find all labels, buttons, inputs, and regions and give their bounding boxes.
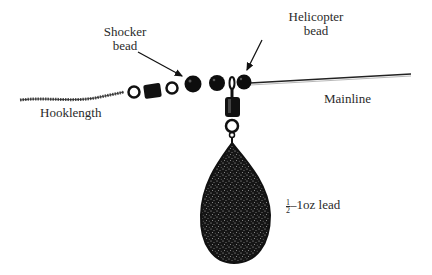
- hooklength-line: [20, 92, 124, 100]
- label-helicopter-bead: Helicopter bead: [276, 10, 356, 38]
- label-shocker-line1: Shocker: [100, 25, 150, 39]
- mainline: [250, 74, 411, 85]
- lead-weight-text: –1oz lead: [290, 197, 340, 212]
- label-mainline: Mainline: [324, 92, 371, 106]
- helicopter-bead: [237, 75, 252, 90]
- label-shocker-bead: Shocker bead: [100, 25, 150, 53]
- label-helicopter-line1: Helicopter: [276, 10, 356, 24]
- shocker-bead-arrow: [138, 52, 182, 76]
- label-helicopter-line2: bead: [276, 24, 356, 38]
- label-hooklength: Hooklength: [40, 106, 101, 120]
- swivel-horizontal: [129, 83, 178, 100]
- label-lead: 1 2 –1oz lead: [286, 198, 340, 214]
- lead-weight: [201, 143, 270, 263]
- shocker-bead: [185, 76, 202, 93]
- helicopter-rig-diagram: Shocker bead Helicopter bead Mainline Ho…: [0, 0, 432, 275]
- helicopter-bead-arrow: [247, 40, 262, 70]
- bead-middle: [209, 75, 225, 91]
- rig-illustration: [0, 0, 432, 275]
- label-shocker-line2: bead: [100, 39, 150, 53]
- swivel-vertical: [225, 97, 240, 146]
- swivel-collar: [230, 77, 235, 98]
